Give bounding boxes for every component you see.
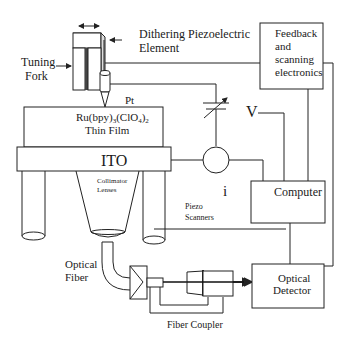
svg-text:V: V <box>246 103 258 120</box>
feedback-scanning-electronics-box: Feedback and scanning electronics <box>260 23 323 89</box>
svg-text:Feedback: Feedback <box>275 27 318 39</box>
svg-text:Piezo: Piezo <box>185 202 203 211</box>
svg-text:i: i <box>223 183 227 199</box>
svg-text:Lenses: Lenses <box>97 186 117 194</box>
feedback-right-wire <box>290 63 333 266</box>
tuning-fork-label: Tuning Fork <box>21 55 71 83</box>
svg-text:Collimator: Collimator <box>97 177 128 185</box>
svg-text:Optical: Optical <box>65 258 97 270</box>
optical-fiber: Optical Fiber <box>65 242 130 290</box>
thin-film-layer: Ru(bpy)3(ClO4)2 Thin Film <box>24 107 163 147</box>
nsom-setup-diagram: Dithering Piezoelectric Element Tuning F… <box>0 0 348 344</box>
svg-text:Optical: Optical <box>278 272 310 284</box>
svg-text:Fork: Fork <box>25 69 48 83</box>
svg-text:Tuning: Tuning <box>21 55 55 69</box>
svg-text:Fiber Coupler: Fiber Coupler <box>167 319 223 330</box>
svg-text:and: and <box>275 40 291 52</box>
svg-text:electronics: electronics <box>275 66 323 78</box>
variable-voltage-source-icon <box>203 98 229 146</box>
optical-detector-box: Optical Detector <box>252 264 324 308</box>
collimator-lenses: Collimator Lenses <box>76 171 139 237</box>
piezo-scanner-left <box>22 171 45 240</box>
voltage-label: V <box>246 103 284 181</box>
svg-text:ITO: ITO <box>101 152 127 169</box>
svg-text:scanning: scanning <box>275 53 315 65</box>
svg-text:Fiber: Fiber <box>65 271 89 283</box>
dithering-element-label: Dithering Piezoelectric Element <box>110 27 250 55</box>
piezo-scanner-right <box>143 171 165 244</box>
ito-electrode: ITO <box>17 147 171 171</box>
pt-label: Pt <box>125 94 134 106</box>
svg-text:Dithering Piezoelectric: Dithering Piezoelectric <box>139 27 250 41</box>
svg-text:Thin Film: Thin Film <box>85 124 130 136</box>
svg-text:Detector: Detector <box>273 284 311 296</box>
fiber-coupler: Fiber Coupler <box>130 266 252 330</box>
svg-text:Scanners: Scanners <box>185 213 214 222</box>
tuning-fork <box>73 33 110 107</box>
svg-text:Element: Element <box>139 41 180 55</box>
computer-box: Computer <box>251 181 325 223</box>
svg-text:Computer: Computer <box>274 185 322 199</box>
